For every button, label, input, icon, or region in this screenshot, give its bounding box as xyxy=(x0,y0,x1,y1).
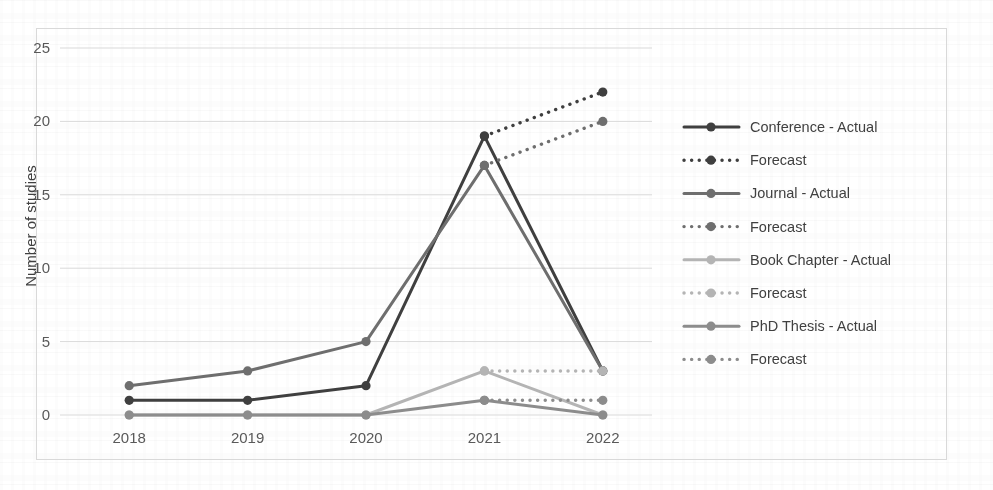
series-line[interactable] xyxy=(484,121,602,165)
data-point-marker[interactable] xyxy=(598,87,607,96)
legend-swatch-marker xyxy=(706,355,715,364)
legend-entry-label[interactable]: Forecast xyxy=(750,219,806,235)
data-point-marker[interactable] xyxy=(125,396,134,405)
legend-entry-label[interactable]: Book Chapter - Actual xyxy=(750,252,891,268)
data-point-marker[interactable] xyxy=(480,366,489,375)
data-series[interactable] xyxy=(125,87,608,419)
y-tick-label: 0 xyxy=(42,406,50,423)
y-tick-label: 25 xyxy=(33,39,50,56)
gridlines xyxy=(60,48,652,415)
data-point-marker[interactable] xyxy=(361,381,370,390)
x-tick-label: 2019 xyxy=(231,429,264,446)
data-point-marker[interactable] xyxy=(243,410,252,419)
y-tick-label: 5 xyxy=(42,333,50,350)
data-point-marker[interactable] xyxy=(361,337,370,346)
y-tick-label: 20 xyxy=(33,112,50,129)
x-tick-label: 2022 xyxy=(586,429,619,446)
x-tick-label: 2018 xyxy=(113,429,146,446)
legend-swatch-marker xyxy=(706,122,715,131)
legend-swatch-marker xyxy=(706,288,715,297)
legend-swatch-marker xyxy=(706,322,715,331)
legend-entry-label[interactable]: PhD Thesis - Actual xyxy=(750,318,877,334)
data-point-marker[interactable] xyxy=(125,381,134,390)
data-point-marker[interactable] xyxy=(598,396,607,405)
series-line[interactable] xyxy=(129,165,603,385)
data-point-marker[interactable] xyxy=(480,396,489,405)
data-point-marker[interactable] xyxy=(243,396,252,405)
data-point-marker[interactable] xyxy=(480,131,489,140)
legend-entry-label[interactable]: Forecast xyxy=(750,285,806,301)
x-tick-label: 2021 xyxy=(468,429,501,446)
data-point-marker[interactable] xyxy=(361,410,370,419)
x-axis-ticks: 20182019202020212022 xyxy=(113,429,620,446)
data-point-marker[interactable] xyxy=(480,161,489,170)
line-chart[interactable]: 0510152025 20182019202020212022 Conferen… xyxy=(0,0,993,490)
y-axis-title: Number of studies xyxy=(22,165,39,287)
data-point-marker[interactable] xyxy=(598,366,607,375)
legend-swatch-marker xyxy=(706,222,715,231)
legend-entry-label[interactable]: Journal - Actual xyxy=(750,185,850,201)
legend-swatch-marker xyxy=(706,156,715,165)
data-point-marker[interactable] xyxy=(598,117,607,126)
legend-entry-label[interactable]: Forecast xyxy=(750,351,806,367)
x-tick-label: 2020 xyxy=(349,429,382,446)
legend-entry-label[interactable]: Forecast xyxy=(750,152,806,168)
data-point-marker[interactable] xyxy=(598,410,607,419)
chart-legend[interactable]: Conference - ActualForecastJournal - Act… xyxy=(684,119,891,367)
legend-entry-label[interactable]: Conference - Actual xyxy=(750,119,877,135)
data-point-marker[interactable] xyxy=(125,410,134,419)
legend-swatch-marker xyxy=(706,189,715,198)
data-point-marker[interactable] xyxy=(243,366,252,375)
legend-swatch-marker xyxy=(706,255,715,264)
